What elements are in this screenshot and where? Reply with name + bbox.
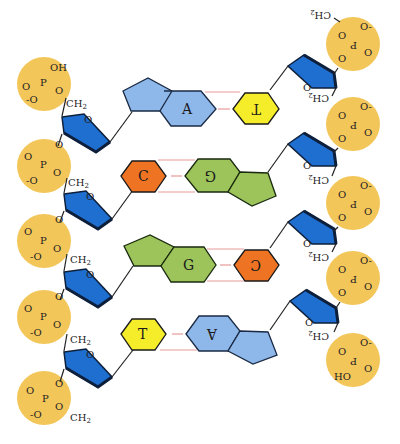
base-label-t: T <box>251 101 261 117</box>
o-label: O <box>55 378 63 389</box>
ch2-label: CH2 <box>308 329 329 342</box>
base-label-c: C <box>250 257 261 273</box>
base-label-t: T <box>138 326 148 342</box>
dna-diagram: OH O P O -O CH2 O O P O -O CH2 O O P O -… <box>0 0 400 444</box>
adenine-base: A <box>186 316 277 364</box>
ring-oxygen-label: O <box>305 317 313 328</box>
o-label: O <box>24 303 32 314</box>
base-pair-c-g: C G <box>121 159 276 206</box>
ch2-label: CH2 <box>70 254 91 267</box>
o-label: O <box>338 189 346 200</box>
ring-oxygen-label: O <box>86 269 94 280</box>
o-minus-label: -O <box>30 327 42 338</box>
left-sugar-4: O <box>64 349 112 387</box>
ring-oxygen-label: O <box>303 238 311 249</box>
o-label: O <box>24 226 32 237</box>
o-label: O <box>55 291 63 302</box>
p-label: P <box>42 393 49 404</box>
ring-oxygen-label: O <box>86 191 94 202</box>
base-label-g: G <box>205 168 216 184</box>
base-label-g: G <box>183 257 194 273</box>
o-label: O <box>364 47 372 58</box>
cytosine-base: C <box>121 161 166 192</box>
ring-oxygen-label: O <box>303 160 311 171</box>
base-label-c: C <box>138 168 149 184</box>
o-minus-label: O- <box>360 255 372 266</box>
ch2-label: CH2 <box>68 177 89 190</box>
o-label: O <box>364 363 372 374</box>
o-minus-label: O- <box>360 337 372 348</box>
p-label: P <box>350 274 357 285</box>
o-label: O <box>53 243 61 254</box>
o-label: O <box>55 401 63 412</box>
o-label: O <box>364 127 372 138</box>
o-label: O <box>53 167 61 178</box>
right-phosphate-3: O- O P O O <box>326 176 380 230</box>
o-minus-label: O- <box>360 21 372 32</box>
p-label: P <box>350 356 357 367</box>
o-label: O <box>338 346 346 357</box>
base-label-a: A <box>181 101 193 117</box>
ch2-label: CH2 <box>70 412 91 425</box>
ch2-label: CH2 <box>308 173 329 186</box>
o-label: O <box>24 151 32 162</box>
right-sugar-3: O <box>288 211 336 249</box>
cytosine-base: C <box>234 250 279 281</box>
thymine-base: T <box>233 93 279 124</box>
right-phosphate-5: O- O P O HO <box>326 333 380 387</box>
ch2-label: CH2 <box>310 8 331 21</box>
ho-label: HO <box>334 371 351 382</box>
o-label: O <box>364 281 372 292</box>
left-phosphate-1: OH O P O -O <box>17 57 71 111</box>
right-sugar-4: O <box>290 290 338 328</box>
p-label: P <box>40 159 47 170</box>
base-pair-a-t: A T <box>123 78 279 126</box>
guanine-base: G <box>124 235 216 282</box>
p-label: P <box>350 40 357 51</box>
adenine-base: A <box>123 78 216 126</box>
p-label: P <box>350 199 357 210</box>
left-phosphate-4: O O P O -O <box>17 290 71 344</box>
right-sugar-1: O <box>288 55 336 93</box>
p-label: P <box>350 120 357 131</box>
left-sugar-2: O <box>64 191 112 229</box>
ch2-label: CH2 <box>66 98 87 111</box>
thymine-base: T <box>121 319 166 350</box>
o-label: O <box>338 133 346 144</box>
right-sugar-2: O <box>288 133 336 171</box>
left-phosphate-5: O O P O -O <box>17 371 71 425</box>
o-label: O <box>338 30 346 41</box>
o-label: O <box>338 53 346 64</box>
right-phosphate-1: O- O P O O <box>326 17 380 71</box>
base-label-a: A <box>206 326 218 342</box>
ring-oxygen-label: O <box>86 349 94 360</box>
ring-oxygen-label: O <box>84 114 92 125</box>
o-minus-label: O- <box>360 101 372 112</box>
p-label: P <box>40 311 47 322</box>
guanine-base: G <box>185 159 276 206</box>
o-minus-label: -O <box>30 409 42 420</box>
o-label: O <box>364 206 372 217</box>
o-label: O <box>26 385 34 396</box>
right-phosphate-2: O- O P O O <box>326 97 380 151</box>
o-label: O <box>338 287 346 298</box>
right-phosphate-4: O- O P O O <box>326 251 380 305</box>
o-label: O <box>22 81 30 92</box>
left-phosphate-2: O O P O -O <box>17 139 71 193</box>
left-sugar-3: O <box>64 269 112 307</box>
base-pair-g-c: G C <box>124 235 279 282</box>
o-label: O <box>53 319 61 330</box>
o-minus-label: O- <box>360 180 372 191</box>
o-minus-label: -O <box>30 251 42 262</box>
o-label: O <box>338 212 346 223</box>
o-minus-label: -O <box>26 175 38 186</box>
left-phosphate-3: O O P O -O <box>17 214 71 268</box>
p-label: P <box>40 235 47 246</box>
ch2-label: CH2 <box>308 250 329 263</box>
oh-label: OH <box>50 62 67 73</box>
ring-oxygen-label: O <box>303 82 311 93</box>
base-pair-t-a: T A <box>121 316 277 364</box>
ch2-label: CH2 <box>308 91 329 104</box>
o-label: O <box>338 264 346 275</box>
o-minus-label: -O <box>26 94 38 105</box>
